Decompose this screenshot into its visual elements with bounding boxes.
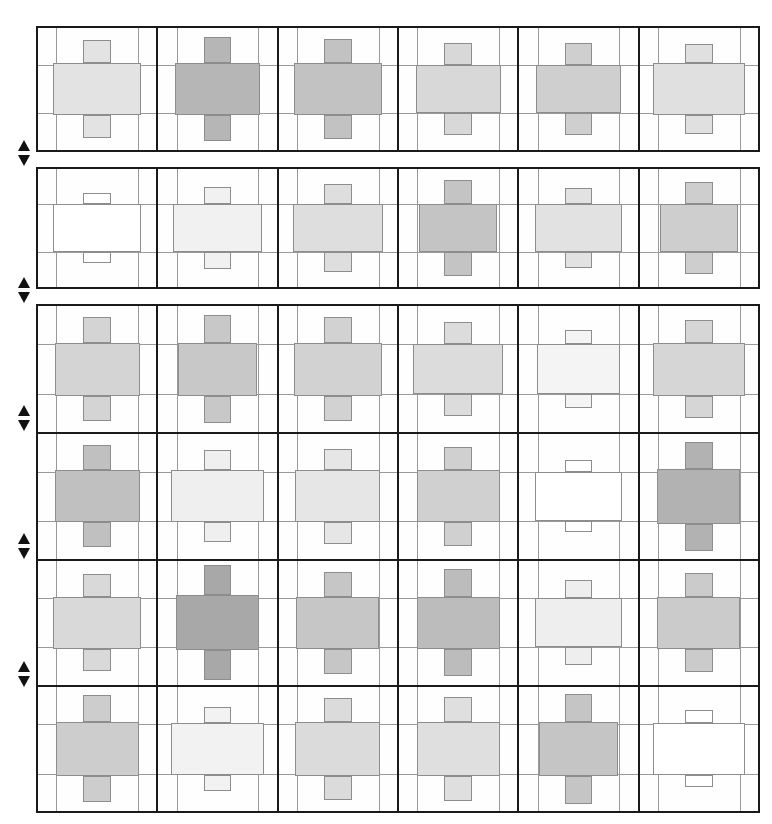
grid-cell <box>397 306 517 432</box>
cell-bar-top <box>444 447 472 471</box>
cell-bar-top <box>565 43 593 65</box>
grid-cell <box>156 561 276 685</box>
cell-cross-glyph <box>38 28 156 150</box>
grid-cell <box>517 306 637 432</box>
cell-bar-bottom <box>565 776 593 803</box>
grid-cell <box>38 306 156 432</box>
cell-bar-bottom <box>565 252 593 269</box>
cell-cross-glyph <box>38 306 156 432</box>
cell-bar-bottom <box>204 775 232 791</box>
cell-cross-glyph <box>519 28 637 150</box>
grid-cell <box>277 687 397 811</box>
grid-cell <box>277 306 397 432</box>
cell-bar-middle <box>537 344 620 395</box>
cell-cross-glyph <box>279 28 397 150</box>
grid-cell <box>638 28 758 150</box>
cell-bar-top <box>204 565 232 595</box>
cell-bar-middle <box>657 469 740 524</box>
cell-bar-middle <box>417 470 500 522</box>
cell-bar-middle <box>653 343 745 396</box>
cell-bar-top <box>83 695 111 721</box>
cell-bar-top <box>685 442 713 469</box>
cell-bar-top <box>685 320 713 343</box>
grid-cell <box>638 561 758 685</box>
grid-cell <box>38 561 156 685</box>
cell-bar-middle <box>295 722 380 777</box>
cell-bar-middle <box>293 204 383 251</box>
cell-cross-glyph <box>158 306 276 432</box>
cell-bar-top <box>204 450 232 470</box>
cell-bar-bottom <box>324 649 352 674</box>
cell-bar-top <box>83 40 111 63</box>
grid-cell <box>38 434 156 558</box>
cell-bar-bottom <box>565 521 593 532</box>
grid-cell <box>517 687 637 811</box>
cell-bar-bottom <box>685 396 713 419</box>
cell-bar-middle <box>413 344 503 395</box>
cell-bar-top <box>204 37 232 64</box>
cell-bar-bottom <box>204 522 232 542</box>
cell-bar-middle <box>296 597 379 649</box>
cell-bar-bottom <box>565 113 593 135</box>
cell-bar-top <box>685 710 713 722</box>
cell-bar-bottom <box>444 649 472 676</box>
cell-cross-glyph <box>640 561 758 685</box>
grid-row <box>38 28 758 150</box>
cell-bar-bottom <box>83 252 111 264</box>
cell-bar-bottom <box>444 394 472 415</box>
cell-bar-middle <box>417 597 500 649</box>
cell-bar-bottom <box>204 396 232 424</box>
cell-bar-middle <box>660 204 738 251</box>
cell-bar-middle <box>535 204 623 251</box>
grid-block <box>36 26 760 152</box>
grid-block <box>36 304 760 813</box>
cell-bar-top <box>204 315 232 343</box>
figure-canvas <box>0 0 772 824</box>
cell-cross-glyph <box>38 687 156 811</box>
cell-bar-middle <box>535 598 623 648</box>
cell-bar-middle <box>55 343 140 396</box>
cell-bar-top <box>565 580 593 597</box>
marker-3-up-icon <box>18 405 30 416</box>
grid-cell <box>638 434 758 558</box>
cell-cross-glyph <box>640 434 758 558</box>
cell-cross-glyph <box>279 687 397 811</box>
cell-cross-glyph <box>519 434 637 558</box>
cell-cross-glyph <box>158 169 276 287</box>
grid-cell <box>156 28 276 150</box>
cell-bar-bottom <box>324 776 352 800</box>
grid-cell <box>38 169 156 287</box>
cell-bar-top <box>565 694 593 721</box>
cell-bar-top <box>444 322 472 343</box>
cell-bar-middle <box>171 723 263 775</box>
cell-bar-middle <box>56 722 139 777</box>
cell-bar-bottom <box>565 394 593 408</box>
cell-bar-top <box>83 445 111 470</box>
cell-bar-bottom <box>324 252 352 272</box>
cell-bar-bottom <box>444 522 472 546</box>
cell-bar-bottom <box>685 649 713 673</box>
cell-bar-top <box>324 698 352 722</box>
cell-bar-middle <box>176 595 259 650</box>
marker-4-down-icon <box>18 548 30 559</box>
cell-bar-middle <box>419 204 497 251</box>
cell-bar-bottom <box>83 115 111 138</box>
cell-cross-glyph <box>640 28 758 150</box>
grid-cell <box>277 169 397 287</box>
grid-cell <box>517 169 637 287</box>
cell-bar-top <box>444 180 472 205</box>
cell-bar-middle <box>53 597 141 649</box>
cell-bar-middle <box>657 597 740 649</box>
marker-5-up-icon <box>18 661 30 672</box>
cell-cross-glyph <box>38 561 156 685</box>
cell-cross-glyph <box>158 434 276 558</box>
grid-row <box>38 685 758 811</box>
cell-bar-middle <box>53 63 141 114</box>
cell-bar-top <box>685 182 713 204</box>
cell-bar-middle <box>536 65 621 114</box>
cell-bar-bottom <box>685 775 713 787</box>
cell-bar-middle <box>171 470 263 522</box>
cell-cross-glyph <box>38 434 156 558</box>
cell-cross-glyph <box>640 687 758 811</box>
cell-bar-bottom <box>83 776 111 802</box>
